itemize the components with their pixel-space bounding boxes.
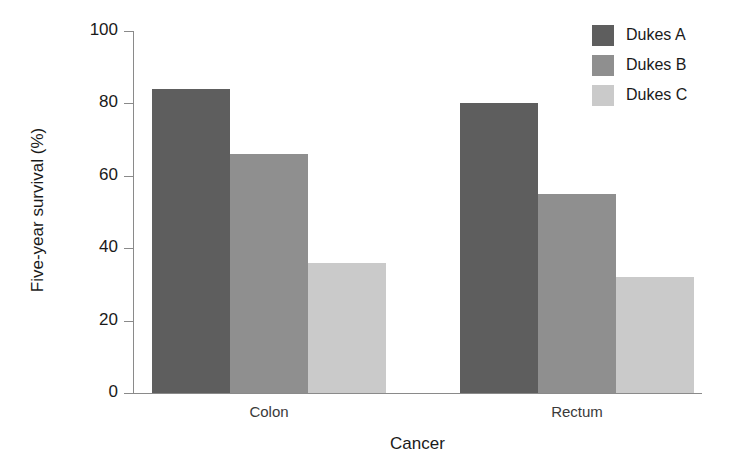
bar xyxy=(308,263,386,393)
legend-label: Dukes B xyxy=(626,56,686,74)
y-tick-mark xyxy=(124,248,133,249)
x-axis-line xyxy=(133,393,702,394)
y-tick-label: 60 xyxy=(99,165,118,185)
y-axis-tick: 0 xyxy=(0,393,133,394)
y-axis-tick: 40 xyxy=(0,248,133,249)
y-axis-tick: 80 xyxy=(0,103,133,104)
legend-swatch-icon xyxy=(592,25,614,46)
y-tick-label: 40 xyxy=(99,237,118,257)
x-axis-title: Cancer xyxy=(133,434,702,454)
legend: Dukes ADukes BDukes C xyxy=(592,20,687,110)
legend-item: Dukes B xyxy=(592,50,687,80)
bar xyxy=(152,89,230,393)
x-tick-label-colon: Colon xyxy=(152,403,386,420)
y-axis-tick: 100 xyxy=(0,31,133,32)
bar xyxy=(460,103,538,393)
legend-item: Dukes A xyxy=(592,20,687,50)
bar xyxy=(230,154,308,393)
y-axis-title: Five-year survival (%) xyxy=(28,40,48,380)
y-tick-mark xyxy=(124,103,133,104)
legend-swatch-icon xyxy=(592,85,614,106)
y-tick-label: 0 xyxy=(109,382,118,402)
bar-chart: Five-year survival (%) 020406080100 Colo… xyxy=(0,0,730,475)
legend-swatch-icon xyxy=(592,55,614,76)
y-tick-mark xyxy=(124,393,133,394)
y-tick-mark xyxy=(124,176,133,177)
legend-item: Dukes C xyxy=(592,80,687,110)
bar xyxy=(538,194,616,393)
y-tick-mark xyxy=(124,321,133,322)
legend-label: Dukes C xyxy=(626,86,687,104)
bar xyxy=(616,277,694,393)
y-axis-tick: 60 xyxy=(0,176,133,177)
y-tick-mark xyxy=(124,31,133,32)
legend-label: Dukes A xyxy=(626,26,686,44)
x-tick-label-rectum: Rectum xyxy=(460,403,694,420)
y-axis-tick: 20 xyxy=(0,321,133,322)
y-tick-label: 100 xyxy=(90,20,118,40)
y-tick-label: 80 xyxy=(99,92,118,112)
y-tick-label: 20 xyxy=(99,310,118,330)
